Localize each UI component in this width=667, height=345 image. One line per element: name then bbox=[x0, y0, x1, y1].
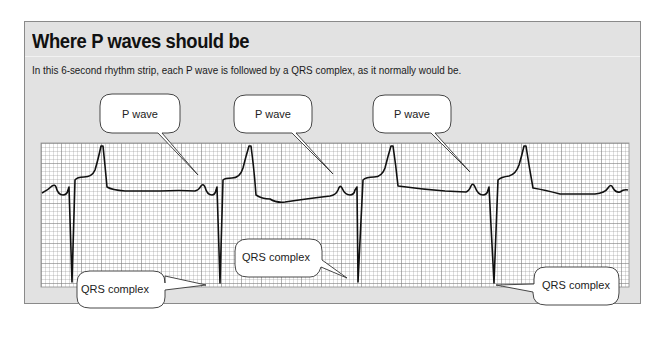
rhythm-strip-figure: P wave P wave P wave QRS complex QRS com… bbox=[0, 0, 667, 345]
p-wave-label-1: P wave bbox=[122, 108, 158, 120]
ecg-grid bbox=[41, 143, 629, 287]
qrs-label-1: QRS complex bbox=[81, 283, 149, 295]
p-wave-label-3: P wave bbox=[394, 108, 430, 120]
p-wave-label-2: P wave bbox=[255, 108, 291, 120]
qrs-label-2: QRS complex bbox=[242, 251, 310, 263]
qrs-label-3: QRS complex bbox=[542, 279, 610, 291]
